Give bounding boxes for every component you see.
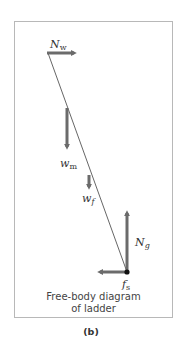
caption-line-1: Free-body diagram (14, 291, 173, 303)
label-symbol: w (60, 157, 69, 170)
caption-line-2: of ladder (14, 303, 173, 315)
label-symbol: N (50, 38, 60, 51)
label-subscript: g (145, 241, 150, 250)
label-symbol: N (135, 236, 145, 249)
label-symbol: w (82, 192, 91, 205)
label-subscript: f (91, 197, 94, 206)
label-w-m: wm (60, 158, 77, 171)
label-n-w: Nw (50, 39, 66, 52)
pivot-point (124, 269, 129, 274)
label-n-g: Ng (135, 237, 150, 250)
label-subscript: w (60, 43, 67, 52)
free-body-diagram: Nw wm wf Ng fs Free-body diagram of ladd… (0, 0, 182, 350)
label-w-f: wf (82, 193, 94, 206)
panel-label: (b) (0, 326, 182, 337)
label-subscript: m (69, 162, 77, 171)
